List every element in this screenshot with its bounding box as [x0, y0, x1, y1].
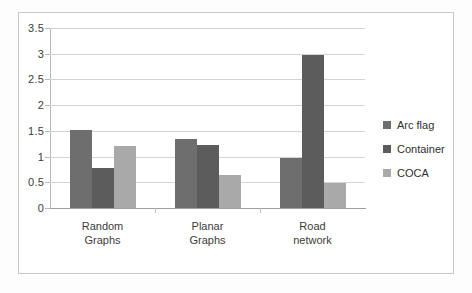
bar-coca-road-network	[324, 183, 346, 208]
bar-container-planar-graphs	[197, 145, 219, 208]
gridline-y-3.5	[50, 28, 365, 29]
legend-label: Arc flag	[397, 119, 434, 131]
x-axis-line	[50, 208, 366, 209]
x-axis-separator-1	[155, 208, 156, 213]
y-tick-label-2: 2	[4, 99, 44, 111]
x-category-label-line: Road	[260, 219, 365, 233]
legend-swatch-icon-container	[383, 145, 391, 153]
legend-label: Container	[397, 143, 445, 155]
legend-item-arc-flag[interactable]: Arc flag	[383, 113, 445, 137]
y-tick-label-2.5: 2.5	[4, 73, 44, 85]
x-category-label-line: network	[260, 233, 365, 247]
y-tick-label-3: 3	[4, 48, 44, 60]
y-tick-mark-2.5	[45, 79, 50, 80]
legend-item-coca[interactable]: COCA	[383, 161, 445, 185]
x-category-label-line: Graphs	[155, 233, 260, 247]
y-tick-label-3.5: 3.5	[4, 22, 44, 34]
bar-container-road-network	[302, 55, 324, 208]
y-tick-mark-1.5	[45, 131, 50, 132]
x-category-label-line: Graphs	[50, 233, 155, 247]
y-tick-mark-2	[45, 105, 50, 106]
y-tick-mark-3	[45, 54, 50, 55]
legend-swatch-icon-arc-flag	[383, 121, 391, 129]
legend-label: COCA	[397, 167, 429, 179]
x-category-label-line: Planar	[155, 219, 260, 233]
y-tick-label-0: 0	[4, 202, 44, 214]
y-tick-mark-1	[45, 157, 50, 158]
chart-legend: Arc flagContainerCOCA	[383, 113, 445, 185]
bar-chart-figure: 00.511.522.533.5 RandomGraphsPlanarGraph…	[0, 0, 472, 293]
y-axis-tick-labels: 00.511.522.533.5	[0, 28, 44, 208]
x-category-label-line: Random	[50, 219, 155, 233]
bar-coca-planar-graphs	[219, 175, 241, 208]
legend-swatch-icon-coca	[383, 169, 391, 177]
y-tick-label-0.5: 0.5	[4, 176, 44, 188]
y-tick-label-1: 1	[4, 151, 44, 163]
legend-item-container[interactable]: Container	[383, 137, 445, 161]
bar-arc-flag-planar-graphs	[175, 139, 197, 208]
y-tick-label-1.5: 1.5	[4, 125, 44, 137]
x-category-label-road-network: Roadnetwork	[260, 219, 365, 247]
bar-container-random-graphs	[92, 168, 114, 208]
plot-area	[50, 28, 365, 208]
x-axis-separator-2	[260, 208, 261, 213]
y-tick-mark-0.5	[45, 182, 50, 183]
y-tick-mark-3.5	[45, 28, 50, 29]
x-category-label-planar-graphs: PlanarGraphs	[155, 219, 260, 247]
bar-arc-flag-road-network	[280, 158, 302, 208]
bar-coca-random-graphs	[114, 146, 136, 208]
x-category-label-random-graphs: RandomGraphs	[50, 219, 155, 247]
y-tick-mark-0	[45, 208, 50, 209]
bar-arc-flag-random-graphs	[70, 130, 92, 208]
